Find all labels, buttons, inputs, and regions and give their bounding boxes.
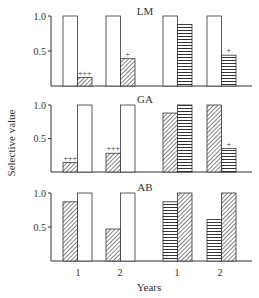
y-tick-label: 1.0 bbox=[34, 188, 47, 199]
y-tick-label: 0.5 bbox=[34, 222, 47, 233]
panel-lm: LM 0.51.0+++++ bbox=[34, 5, 253, 86]
panel-ga: GA 0.51.0+++++++ bbox=[34, 93, 253, 172]
significance-annotation: +++ bbox=[78, 69, 92, 78]
bar-white bbox=[207, 16, 222, 86]
y-tick-label: 1.0 bbox=[34, 100, 47, 111]
significance-annotation: + bbox=[226, 140, 231, 149]
significance-annotation: + bbox=[226, 46, 231, 55]
bar-diagonal bbox=[63, 163, 78, 172]
bar-horizontal bbox=[222, 55, 237, 86]
x-tick-label: 2 bbox=[218, 267, 223, 278]
bar-chart: Selective value LM 0.51.0+++++ GA 0.51.0… bbox=[0, 0, 259, 298]
bar-diagonal bbox=[121, 59, 136, 86]
bar-diagonal bbox=[178, 193, 193, 261]
x-axis-label: Years bbox=[137, 281, 162, 293]
significance-annotation: +++ bbox=[63, 154, 77, 163]
panel-ab: AB 0.51.0 bbox=[34, 181, 253, 261]
y-tick-label: 0.5 bbox=[34, 133, 47, 144]
panel-title-lm: LM bbox=[137, 5, 154, 17]
y-tick-label: 0.5 bbox=[34, 46, 47, 57]
x-tick-label: 1 bbox=[76, 267, 81, 278]
x-tick-labels: 1 2 1 2 bbox=[76, 267, 223, 278]
panel-title-ab: AB bbox=[137, 181, 152, 193]
bar-diagonal bbox=[222, 193, 237, 261]
bar-white bbox=[63, 16, 78, 86]
x-tick-label: 2 bbox=[118, 267, 123, 278]
y-tick-label: 1.0 bbox=[34, 11, 47, 22]
bar-white bbox=[163, 16, 178, 86]
bar-diagonal bbox=[163, 113, 178, 172]
y-axis-label: Selective value bbox=[5, 109, 17, 176]
bar-white bbox=[121, 105, 136, 172]
bar-white bbox=[78, 105, 93, 172]
x-tick-label: 1 bbox=[175, 267, 180, 278]
significance-annotation: +++ bbox=[106, 144, 120, 153]
significance-annotation: + bbox=[125, 50, 130, 59]
panel-title-ga: GA bbox=[137, 93, 153, 105]
bar-diagonal bbox=[106, 153, 121, 172]
bar-horizontal bbox=[222, 149, 237, 172]
bar-horizontal bbox=[207, 220, 222, 261]
bar-white bbox=[121, 193, 136, 261]
bar-white bbox=[106, 16, 121, 86]
bar-horizontal bbox=[178, 105, 193, 172]
bar-diagonal bbox=[207, 105, 222, 172]
bar-horizontal bbox=[163, 202, 178, 261]
bar-diagonal bbox=[63, 202, 78, 261]
bar-white bbox=[78, 193, 93, 261]
bar-horizontal bbox=[178, 24, 193, 86]
bar-diagonal bbox=[78, 78, 93, 86]
bar-diagonal bbox=[106, 229, 121, 261]
